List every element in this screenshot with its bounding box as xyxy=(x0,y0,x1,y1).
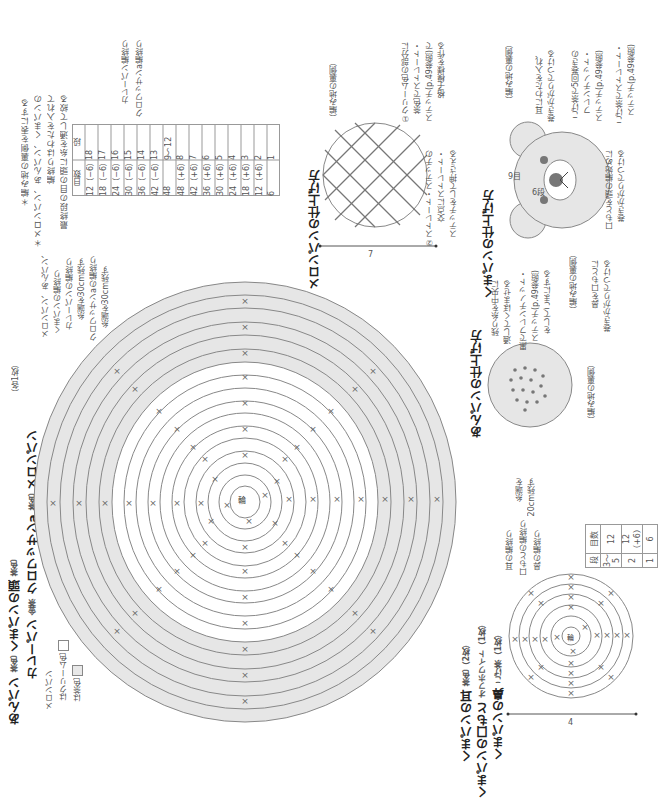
melon-label-2b: 交点にストレート・ xyxy=(436,150,447,222)
small-title-nose: くまパンの鼻 こげ茶（1枚） xyxy=(490,630,507,760)
svg-text:×: × xyxy=(567,678,575,688)
svg-text:×: × xyxy=(197,498,205,508)
kuma-label-eye-a: こげ茶で5回巻きの xyxy=(570,50,581,119)
svg-text:×: × xyxy=(567,582,575,592)
svg-text:×: × xyxy=(553,632,561,642)
anpan-label-2c: をしてごまにする xyxy=(542,270,553,334)
anpan-label-back: （編み地の裏側） xyxy=(586,360,597,424)
title-ear: くまパンの耳 xyxy=(460,690,474,762)
svg-text:×: × xyxy=(567,688,575,698)
svg-text:×: × xyxy=(49,498,57,508)
svg-text:×: × xyxy=(597,662,605,672)
title-mouth: くまパンの口もと xyxy=(476,702,490,798)
kuma-label-muzzle-b: 巻きかがりでつける xyxy=(616,150,627,222)
svg-text:×: × xyxy=(567,658,575,668)
svg-text:×: × xyxy=(527,672,535,682)
small-table-header-stitches: 目数 xyxy=(586,525,601,554)
svg-text:×: × xyxy=(75,498,83,508)
svg-text:×: × xyxy=(131,384,139,394)
svg-text:×: × xyxy=(293,550,301,560)
svg-text:×: × xyxy=(241,542,249,552)
svg-text:×: × xyxy=(241,592,249,602)
svg-text:×: × xyxy=(155,584,163,594)
svg-text:×: × xyxy=(241,670,249,680)
svg-text:×: × xyxy=(201,454,209,464)
svg-text:×: × xyxy=(189,442,197,452)
kuma-label-6: 6段 xyxy=(532,186,545,197)
svg-text:×: × xyxy=(603,630,611,640)
svg-text:×: × xyxy=(527,588,535,598)
svg-text:×: × xyxy=(189,550,197,560)
svg-text:×: × xyxy=(211,474,219,484)
svg-text:×: × xyxy=(567,668,575,678)
kuma-label-eye-c: ステッチ(p.49参照) xyxy=(594,50,605,122)
svg-text:×: × xyxy=(245,516,253,526)
svg-text:×: × xyxy=(241,696,249,706)
kuma-label-mouth-a: こげ茶でストレート・ xyxy=(614,44,625,124)
svg-text:×: × xyxy=(569,646,577,656)
end-label-3: カレーパンの編終り xyxy=(64,258,75,330)
kuma-label-muzzle-a: 口もとを頭の編始めに xyxy=(604,150,615,230)
svg-text:×: × xyxy=(433,494,441,504)
small-chart-center-label: 輪 xyxy=(567,632,574,642)
svg-text:×: × xyxy=(281,538,289,548)
svg-text:×: × xyxy=(241,348,249,358)
svg-text:×: × xyxy=(223,500,231,510)
svg-text:×: × xyxy=(333,494,341,504)
kuma-label-mouth-b: ステッチ(p.49参照) xyxy=(626,44,637,116)
title-nose: くまパンの鼻 xyxy=(492,688,506,760)
end-label-1: メロンパン、あんパン、 xyxy=(40,250,51,338)
svg-text:×: × xyxy=(281,454,289,464)
svg-text:×: × xyxy=(113,366,121,376)
svg-text:×: × xyxy=(567,572,575,582)
end-label-4: 糸端を30cm残す xyxy=(76,258,87,320)
svg-text:×: × xyxy=(351,384,359,394)
end-label-6: 糸端を30cm残す xyxy=(100,266,111,328)
svg-text:×: × xyxy=(309,424,317,434)
table-cell: 2 xyxy=(622,553,643,567)
table-cell: 1 xyxy=(643,553,658,567)
table-cell: 12 xyxy=(601,525,622,554)
anpan-title: あんパンの仕上げ方 xyxy=(468,330,485,438)
svg-text:×: × xyxy=(567,602,575,612)
svg-text:×: × xyxy=(567,592,575,602)
small-label-nose-end: 鼻の編終り xyxy=(532,530,543,570)
svg-text:×: × xyxy=(309,566,317,576)
svg-text:×: × xyxy=(537,662,545,672)
svg-text:×: × xyxy=(149,498,157,508)
svg-text:×: × xyxy=(125,498,133,508)
svg-text:×: × xyxy=(173,424,181,434)
svg-text:×: × xyxy=(511,634,519,644)
melon-label-1b: 茶色でストレート・ xyxy=(412,42,423,114)
svg-text:×: × xyxy=(241,424,249,434)
svg-text:×: × xyxy=(581,622,589,632)
svg-text:×: × xyxy=(155,406,163,416)
small-label-ear-end: 耳の編終り xyxy=(504,530,515,570)
melon-label-back: （編み地の裏側） xyxy=(328,58,339,122)
svg-text:×: × xyxy=(407,494,415,504)
svg-text:×: × xyxy=(351,608,359,618)
svg-text:×: × xyxy=(261,490,269,500)
svg-text:×: × xyxy=(273,476,281,486)
svg-text:×: × xyxy=(369,626,377,636)
small-label-yarn-b: 20cm残す xyxy=(526,478,537,516)
anpan-label-1b: 通してくぼませる xyxy=(502,280,513,344)
svg-text:×: × xyxy=(309,494,317,504)
svg-text:×: × xyxy=(593,630,601,640)
kuma-label-ear-b: 巻きかがりでつける xyxy=(546,50,557,122)
small-title-mouth: くまパンの口もと オフホワイト（1枚） xyxy=(474,620,491,798)
svg-text:×: × xyxy=(241,372,249,382)
melon-measure xyxy=(318,240,438,252)
svg-text:×: × xyxy=(207,516,215,526)
kuma-label-back: （編み地の裏側） xyxy=(504,40,515,104)
svg-text:×: × xyxy=(531,634,539,644)
kuma-label-9: 9目 xyxy=(508,170,521,181)
svg-text:×: × xyxy=(241,618,249,628)
melon-measure-value: 7 xyxy=(368,250,373,259)
svg-text:×: × xyxy=(241,566,249,576)
svg-text:×: × xyxy=(357,494,365,504)
svg-text:×: × xyxy=(241,644,249,654)
svg-text:×: × xyxy=(285,494,293,504)
svg-text:×: × xyxy=(293,442,301,452)
melon-label-2a: ②ストレート・ステッチの xyxy=(424,150,435,247)
